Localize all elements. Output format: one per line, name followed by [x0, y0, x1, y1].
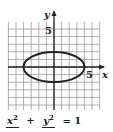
equals-one: = 1	[58, 114, 85, 128]
y-exponent: 2	[49, 113, 54, 122]
x-tick-label-5: 5	[86, 69, 93, 80]
y-axis-label: y	[43, 9, 51, 20]
ellipse-graph-figure: y 5 5 x x2 + y2 = 1	[0, 0, 113, 132]
y-tick-label-5: 5	[45, 25, 52, 36]
y-axis-arrow-icon	[52, 10, 57, 16]
coordinate-plane: y 5 5 x	[0, 0, 113, 112]
x-axis-label: x	[101, 69, 109, 80]
fraction-y-term: y2	[42, 112, 55, 128]
ellipse-equation: x2 + y2 = 1	[6, 112, 85, 132]
plus-sign: +	[22, 114, 38, 128]
fraction-x-term: x2	[6, 112, 19, 128]
x-exponent: 2	[13, 113, 18, 122]
